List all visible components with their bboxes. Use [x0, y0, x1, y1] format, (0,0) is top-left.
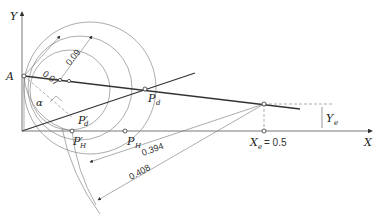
dim-label-007: 0.07: [41, 69, 61, 88]
dim-0408: [98, 104, 264, 200]
label-pd-sub: d: [156, 99, 161, 107]
dim-0394: [90, 104, 264, 162]
label-ph: P: [126, 135, 135, 148]
arcs: [24, 22, 156, 214]
arc-large: [24, 22, 156, 154]
point-ph-prime: [70, 129, 74, 133]
main-lines: [22, 73, 300, 131]
line-a-xe: [24, 76, 300, 109]
point-xe-top: [262, 102, 266, 106]
y-axis-label: Y: [10, 10, 19, 23]
point-ph: [123, 129, 127, 133]
geometry-diagram: X Y: [0, 0, 389, 216]
point-a: [22, 74, 26, 78]
labels: A α P d P′ d P′ H P H X e = 0.5 Y e 0.07…: [5, 47, 338, 182]
label-alpha: α: [36, 97, 43, 108]
label-ye-sub: e: [334, 119, 338, 127]
label-ph-prime-sub: H: [79, 142, 87, 150]
label-xe-value: = 0.5: [264, 137, 287, 148]
dim-label-0394: 0.394: [140, 141, 165, 158]
x-axis-label: X: [363, 136, 373, 149]
point-009: [67, 79, 70, 82]
label-pd: P: [147, 92, 156, 105]
dim-label-0408: 0.408: [127, 162, 152, 181]
label-xe-sub: e: [258, 143, 262, 151]
point-pd: [143, 87, 147, 91]
radius-007: [24, 36, 60, 76]
label-a: A: [5, 70, 14, 83]
label-pd-prime-sub: d: [84, 120, 89, 128]
right-angle-mark: [50, 96, 62, 102]
point-xe: [262, 129, 266, 133]
